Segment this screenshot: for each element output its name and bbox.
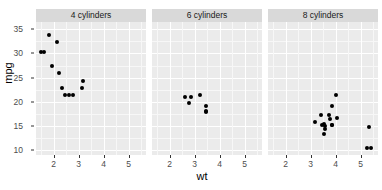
x-tick-mark-3 [195,155,196,158]
data-point [204,104,208,108]
gridline-minor-v [232,22,233,155]
gridline-minor-v [257,22,258,155]
gridline-minor-v [348,22,349,155]
data-point [42,50,46,54]
x-tick-mark-3 [79,155,80,158]
data-point [198,93,202,97]
y-axis-ticks: 101520253035 [0,0,30,190]
data-point [55,40,59,44]
gridline-minor-v [298,22,299,155]
data-point [367,125,371,129]
x-tick-label-5: 5 [358,159,363,169]
strip-label-6-cylinders: 6 cylinders [152,9,262,22]
x-tick-mark-4 [336,155,337,158]
x-tick-label-2: 2 [283,159,288,169]
strip-label-8-cylinders: 8 cylinders [268,9,378,22]
gridline-minor-v [273,22,274,155]
gridline-major-v [195,22,196,155]
data-point [319,113,323,117]
y-tick-mark-25 [31,77,34,78]
x-tick-mark-4 [104,155,105,158]
y-tick-label-30: 30 [14,48,23,58]
data-point [50,64,54,68]
gridline-major-v [245,22,246,155]
y-tick-label-20: 20 [14,97,23,107]
data-point [322,132,326,136]
data-point [334,93,338,97]
y-tick-mark-30 [31,53,34,54]
gridline-minor-v [157,22,158,155]
y-tick-mark-20 [31,101,34,102]
panel-8-cylinders [268,22,378,155]
x-tick-mark-5 [361,155,362,158]
y-tick-mark-10 [31,150,34,151]
data-point [81,79,85,83]
data-point [60,86,64,90]
x-tick-label-2: 2 [51,159,56,169]
data-point [328,117,332,121]
x-tick-label-3: 3 [308,159,313,169]
gridline-minor-v [141,22,142,155]
data-point [47,33,51,37]
y-tick-mark-15 [31,125,34,126]
gridline-minor-v [66,22,67,155]
y-tick-mark-35 [31,29,34,30]
gridline-major-v [170,22,171,155]
data-point [189,95,193,99]
panel-4-cylinders [36,22,146,155]
gridline-major-v [336,22,337,155]
x-tick-label-4: 4 [333,159,338,169]
gridline-major-v [286,22,287,155]
gridline-major-v [361,22,362,155]
gridline-major-v [129,22,130,155]
data-point [369,146,373,150]
gridline-minor-v [373,22,374,155]
x-tick-mark-3 [311,155,312,158]
data-point [57,71,61,75]
x-tick-mark-2 [286,155,287,158]
y-tick-label-35: 35 [14,24,23,34]
facet-scatter-plot: mpg 101520253035 4 cylinders 6 cylinders… [0,0,382,190]
x-axis-title: wt [175,170,208,182]
gridline-minor-v [207,22,208,155]
x-axis-title-wrapper: wt [0,170,382,182]
data-point [330,104,334,108]
data-point [335,116,339,120]
y-tick-label-10: 10 [14,145,23,155]
x-tick-mark-4 [220,155,221,158]
gridline-minor-v [182,22,183,155]
data-point [204,110,208,114]
data-point [313,120,317,124]
gridline-major-v [220,22,221,155]
y-tick-label-25: 25 [14,73,23,83]
panel-6-cylinders [152,22,262,155]
x-tick-label-4: 4 [101,159,106,169]
x-tick-mark-5 [245,155,246,158]
gridline-minor-v [41,22,42,155]
data-point [71,93,75,97]
x-tick-label-2: 2 [167,159,172,169]
data-point [187,101,191,105]
data-point [183,95,187,99]
x-tick-label-3: 3 [76,159,81,169]
x-tick-label-4: 4 [217,159,222,169]
y-tick-label-15: 15 [14,121,23,131]
gridline-major-v [311,22,312,155]
x-tick-label-5: 5 [126,159,131,169]
data-point [330,123,334,127]
gridline-minor-v [91,22,92,155]
data-point [323,124,327,128]
x-tick-mark-2 [54,155,55,158]
x-tick-mark-2 [170,155,171,158]
x-tick-label-3: 3 [192,159,197,169]
gridline-minor-v [116,22,117,155]
x-tick-label-5: 5 [242,159,247,169]
x-tick-mark-5 [129,155,130,158]
gridline-major-v [104,22,105,155]
strip-label-4-cylinders: 4 cylinders [36,9,146,22]
data-point [80,86,84,90]
